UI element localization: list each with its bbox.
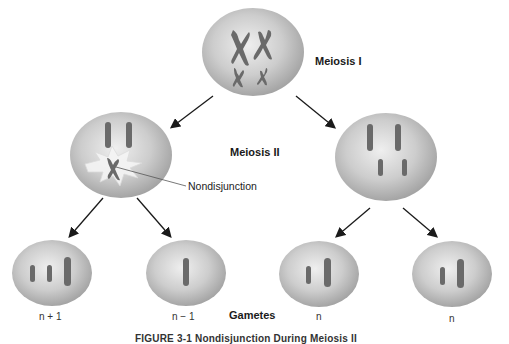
chromosome-large [126, 122, 132, 148]
arrow-right-to-gamete4 [403, 208, 436, 236]
arrow-parent-to-left [172, 96, 213, 127]
chromosome-large [105, 122, 111, 148]
chromosome-small [440, 267, 445, 285]
chromosome-large [183, 258, 189, 286]
parent-cell [202, 8, 304, 96]
chromosome-small [47, 265, 52, 282]
label-gametes: Gametes [229, 309, 275, 321]
label-nondisjunction: Nondisjunction [188, 180, 257, 192]
arrow-left-to-gamete2 [137, 198, 170, 236]
chromosome-small [378, 159, 383, 176]
chromosome-small [306, 266, 311, 284]
chromosome-small [30, 265, 35, 282]
arrow-parent-to-right [296, 96, 334, 127]
gamete-1-cell [12, 240, 92, 306]
meiosis2-right-cell [335, 113, 437, 201]
chromosome-large [457, 259, 464, 288]
arrow-right-to-gamete3 [337, 208, 370, 236]
gamete-label-3: n [316, 311, 322, 322]
meiosis2-left-cell [70, 112, 186, 198]
figure-caption: FIGURE 3-1 Nondisjunction During Meiosis… [135, 333, 357, 344]
chromosome-large [324, 258, 331, 287]
gamete-label-1: n + 1 [39, 311, 62, 322]
gamete-3-cell [279, 241, 359, 307]
chromosome-small [402, 159, 407, 176]
gamete-2-cell [146, 240, 226, 306]
gamete-label-4: n [449, 313, 455, 324]
label-meiosis-2: Meiosis II [230, 146, 280, 158]
chromosome-large [367, 124, 373, 151]
label-meiosis-1: Meiosis I [315, 55, 361, 67]
gamete-4-cell [412, 241, 492, 307]
arrow-left-to-gamete1 [70, 198, 103, 236]
chromosome-large [64, 257, 71, 286]
gamete-label-2: n − 1 [172, 311, 195, 322]
chromosome-large [395, 124, 401, 151]
